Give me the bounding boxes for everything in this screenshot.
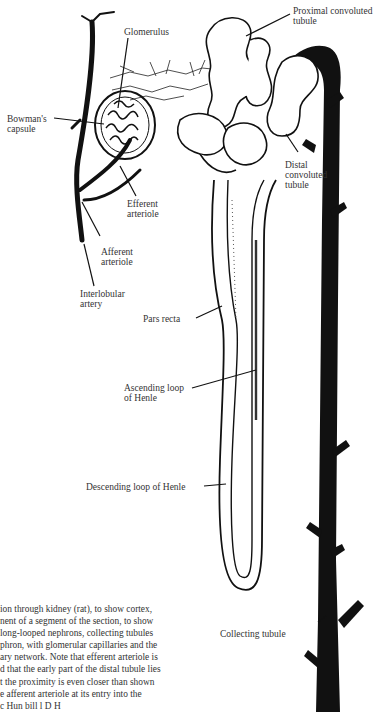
label-interlobular-artery: Interlobular artery [80,289,125,309]
label-line: Afferent [101,247,133,257]
label-line: artery [80,299,125,309]
caption-line: ary network. Note that efferent arteriol… [0,651,300,663]
label-efferent-arteriole: Efferent arteriole [127,199,159,219]
label-line: of Henle [124,393,184,403]
caption-line: long-looped nephrons, collecting tubules [0,627,300,639]
label-afferent-arteriole: Afferent arteriole [101,247,133,267]
caption-line: c Hun bill l D H [0,700,300,712]
label-line: tubule [285,180,327,190]
label-ascending-loop-of-henle: Ascending loop of Henle [124,383,184,403]
label-line: arteriole [127,209,159,219]
caption-line: nent of a segment of the section, to sho… [0,615,300,627]
label-line: capsule [7,124,47,134]
label-glomerulus: Glomerulus [124,27,169,37]
label-line: Proximal convoluted [293,6,372,16]
label-line: tubule [293,16,372,26]
label-line: Efferent [127,199,159,209]
label-distal-convoluted-tubule: Distal convoluted tubule [285,160,327,190]
collecting-tubule-drawing [290,46,364,712]
caption-line: d that the early part of the distal tubu… [0,663,300,675]
distal-convoluted-drawing [267,56,318,136]
label-bowmans-capsule: Bowman's capsule [7,114,47,134]
label-proximal-convoluted-tubule: Proximal convoluted tubule [293,6,372,26]
label-line: Interlobular [80,289,125,299]
capillary-network-drawing [110,60,222,100]
label-line: convoluted [285,170,327,180]
label-line: Bowman's [7,114,47,124]
loop-of-henle-drawing [212,180,276,590]
caption-line: e afferent arteriole at its entry into t… [0,688,300,700]
caption-line: ion through kidney (rat), to show cortex… [0,603,300,615]
label-line: arteriole [101,257,133,267]
label-line: Ascending loop [124,383,184,393]
caption-line: phron, with glomerular capillaries and t… [0,639,300,651]
figure-caption: ion through kidney (rat), to show cortex… [0,603,300,712]
label-descending-loop-of-henle: Descending loop of Henle [86,482,185,492]
label-pars-recta: Pars recta [143,314,180,324]
caption-line: t the proximity is even closer than show… [0,676,300,688]
proximal-convoluted-drawing [178,18,272,173]
label-line: Distal [285,160,327,170]
